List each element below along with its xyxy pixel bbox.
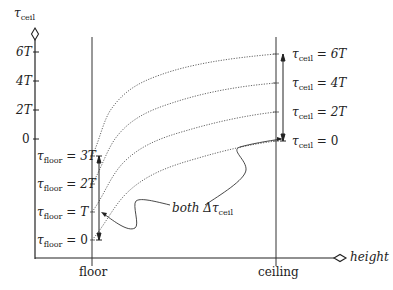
annotation-arrowhead-floor bbox=[101, 212, 107, 217]
curve-2T-4T bbox=[92, 83, 276, 184]
y-ticks bbox=[33, 52, 39, 139]
floor-label-3T: τfloor = 3T bbox=[37, 150, 96, 165]
y-tick-2T: 2T bbox=[16, 104, 32, 116]
ceil-rhs: = 0 bbox=[317, 134, 339, 148]
floor-symbol: τ bbox=[37, 149, 44, 163]
y-axis-symbol: τ bbox=[14, 6, 21, 20]
ceil-rhs: = 2T bbox=[317, 105, 347, 119]
floor-subscript: floor bbox=[44, 212, 63, 221]
floor-rhs: = 0 bbox=[66, 233, 88, 247]
ceil-subscript: ceil bbox=[299, 141, 313, 150]
ceil-symbol: τ bbox=[292, 47, 299, 61]
floor-subscript: floor bbox=[44, 240, 63, 249]
floor-symbol: τ bbox=[37, 205, 44, 219]
floor-rhs: = 3T bbox=[66, 149, 96, 163]
ceil-label-4T: τceil = 4T bbox=[292, 77, 346, 92]
annotation-subscript: ceil bbox=[219, 208, 233, 217]
annotation-prefix: both bbox=[172, 201, 199, 215]
ceil-subscript: ceil bbox=[299, 54, 313, 63]
ceil-symbol: τ bbox=[292, 76, 299, 90]
floor-rhs: = T bbox=[66, 205, 88, 219]
curve-3T-6T bbox=[92, 54, 276, 156]
ceil-label-0: τceil = 0 bbox=[292, 135, 338, 150]
y-axis-title: τceil bbox=[14, 7, 35, 22]
floor-symbol: τ bbox=[37, 177, 44, 191]
y-tick-6T: 6T bbox=[16, 46, 32, 58]
y-tick-0: 0 bbox=[22, 133, 30, 145]
y-tick-4T: 4T bbox=[16, 75, 32, 87]
floor-label-T: τfloor = T bbox=[37, 206, 88, 221]
ceil-symbol: τ bbox=[292, 134, 299, 148]
ceil-symbol: τ bbox=[292, 105, 299, 119]
ceil-delta-arrow bbox=[280, 54, 286, 141]
floor-label-2T: τfloor = 2T bbox=[37, 178, 96, 193]
ceil-rhs: = 6T bbox=[317, 47, 347, 61]
floor-label-0: τfloor = 0 bbox=[37, 234, 88, 249]
diagram-canvas: τceil 6T 4T 2T 0 τfloor = 3T τfloor = 2T… bbox=[0, 0, 393, 290]
floor-subscript: floor bbox=[44, 184, 63, 193]
ceil-label-2T: τceil = 2T bbox=[292, 106, 346, 121]
curve-T-2T bbox=[92, 112, 276, 212]
ceil-rhs: = 4T bbox=[317, 76, 347, 90]
annotation-label: both Δτceil bbox=[172, 202, 233, 217]
y-axis-arrow-icon bbox=[32, 28, 39, 40]
y-axis-subscript: ceil bbox=[21, 13, 35, 22]
x-tick-floor: floor bbox=[79, 266, 107, 278]
x-tick-ceiling: ceiling bbox=[258, 266, 299, 278]
ceil-subscript: ceil bbox=[299, 112, 313, 121]
x-axis-title: height bbox=[350, 251, 389, 263]
floor-rhs: = 2T bbox=[66, 177, 96, 191]
ceil-label-6T: τceil = 6T bbox=[292, 48, 346, 63]
x-axis-arrow-icon bbox=[334, 255, 346, 262]
floor-subscript: floor bbox=[44, 156, 63, 165]
ceil-subscript: ceil bbox=[299, 83, 313, 92]
floor-symbol: τ bbox=[37, 233, 44, 247]
annotation-delta: Δτ bbox=[203, 201, 218, 215]
